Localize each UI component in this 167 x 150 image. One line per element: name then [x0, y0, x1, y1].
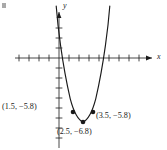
math-graph-figure: y x (1.5, −5.8) (3.5, −5.8) (2.5, −6.8) — [0, 0, 167, 150]
left-point-label: (1.5, −5.8) — [2, 103, 37, 111]
x-axis-group — [15, 55, 152, 62]
y-axis-label: y — [63, 2, 67, 10]
vertex-point-dot — [81, 120, 86, 125]
vertex-point-label: (2.5, −6.8) — [57, 128, 92, 136]
x-axis-arrowhead — [146, 56, 152, 61]
parabola-curve — [56, 6, 110, 122]
right-point-dot — [91, 110, 96, 115]
right-point-label: (3.5, −5.8) — [96, 112, 131, 120]
x-axis-label: x — [157, 53, 161, 61]
left-point-dot — [71, 110, 76, 115]
plotted-points — [71, 110, 96, 125]
